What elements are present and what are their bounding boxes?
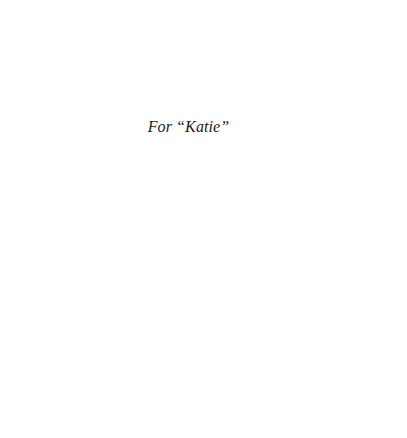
book-page: For “Katie”	[0, 0, 407, 438]
dedication-text: For “Katie”	[0, 117, 377, 137]
